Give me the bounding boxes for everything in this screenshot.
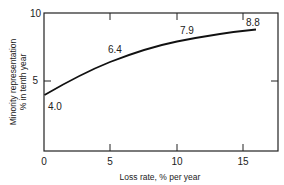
x-tick-label-15: 15 (237, 156, 249, 167)
x-axis-title: Loss rate, % per year (120, 172, 201, 182)
y-tick-label-5: 5 (32, 75, 38, 86)
plot-frame (44, 13, 278, 151)
line-chart: 0 5 10 15 5 10 Loss rate, % per year Min… (0, 0, 284, 185)
y-axis-title-line2: % in tenth year (18, 53, 28, 110)
data-label-8-8: 8.8 (246, 17, 260, 28)
y-axis-title-line1: Minority representation (8, 39, 18, 126)
data-curve (45, 30, 257, 96)
data-label-6-4: 6.4 (108, 44, 122, 55)
y-tick-label-10: 10 (30, 8, 42, 19)
x-tick-label-5: 5 (107, 156, 113, 167)
x-tick-label-0: 0 (41, 156, 47, 167)
x-tick-label-10: 10 (171, 156, 183, 167)
data-label-7-9: 7.9 (180, 25, 194, 36)
data-label-4-0: 4.0 (48, 101, 62, 112)
